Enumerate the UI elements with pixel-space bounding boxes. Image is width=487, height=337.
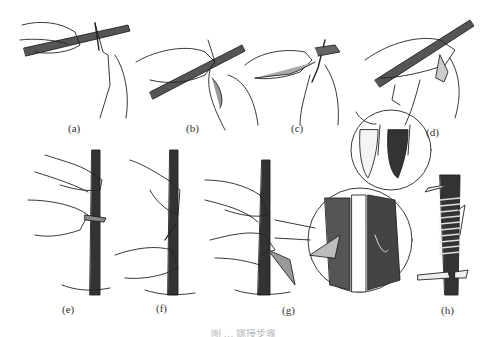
panel-b-art [136,40,258,130]
panel-g-art [205,160,412,295]
panel-f-art [115,150,195,295]
panel-label-d: (d) [426,126,439,138]
panel-label-a: (a) [68,122,80,134]
panel-label-f: (f) [156,302,167,314]
panel-label-e: (e) [62,303,74,315]
panel-label-c: (c) [291,122,303,134]
panel-a-art [20,22,130,118]
panel-label-h: (h) [441,304,454,316]
panel-label-b: (b) [186,122,199,134]
panel-d-art [351,20,474,190]
figure-caption: 图 … 嫁接步骤 [0,329,487,337]
panel-label-g: (g) [282,304,295,316]
panel-c-art [245,40,340,125]
panel-h-art [418,175,468,295]
panel-e-art [28,150,110,295]
